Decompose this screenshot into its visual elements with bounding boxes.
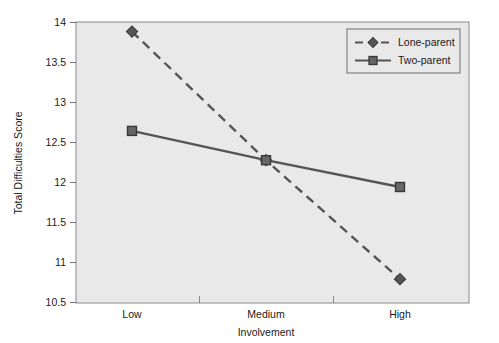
legend-label-two-parent: Two-parent: [398, 54, 451, 66]
line-chart: 14 13.5 13 12.5 12 11.5 11 10.5 Total Di…: [0, 0, 499, 343]
series-two-parent-marker-low: [128, 126, 137, 135]
series-two-parent-marker-medium: [262, 156, 271, 165]
y-tick-label-11: 11: [55, 256, 66, 268]
y-tick-label-12: 12: [54, 176, 66, 188]
chart-legend: Lone-parent Two-parent: [347, 29, 460, 73]
x-axis-title: Involvement: [238, 326, 295, 338]
y-tick-label-13-5: 13.5: [46, 56, 67, 68]
chart-figure: 14 13.5 13 12.5 12 11.5 11 10.5 Total Di…: [0, 0, 499, 343]
y-tick-label-14: 14: [54, 16, 66, 28]
x-tick-label-high: High: [389, 308, 411, 320]
x-tick-label-low: Low: [122, 308, 142, 320]
y-tick-label-11-5: 11.5: [46, 216, 66, 228]
legend-marker-square-icon: [369, 57, 377, 65]
y-tick-label-10-5: 10.5: [46, 296, 67, 308]
y-tick-label-13: 13: [54, 96, 66, 108]
y-tick-label-12-5: 12.5: [46, 136, 67, 148]
legend-label-lone-parent: Lone-parent: [398, 36, 455, 48]
y-axis-title: Total Difficulties Score: [12, 111, 24, 214]
x-tick-label-medium: Medium: [247, 308, 285, 320]
series-two-parent-marker-high: [396, 183, 405, 192]
